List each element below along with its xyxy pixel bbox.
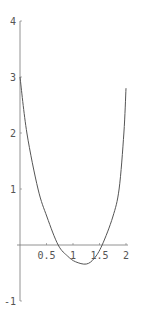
chart-plot: 0.511.52-11234 [0,0,165,322]
y-tick-label: 1 [10,184,16,195]
series-curves [20,77,126,264]
y-tick-label: 2 [10,128,16,139]
y-tick-label: 3 [10,72,16,83]
curve-line [20,77,126,264]
y-tick-label: -1 [4,296,16,307]
tick-labels: 0.511.52-11234 [4,16,129,307]
x-tick-label: 0.5 [37,250,55,261]
y-tick-label: 4 [10,16,16,27]
x-tick-label: 2 [123,250,129,261]
